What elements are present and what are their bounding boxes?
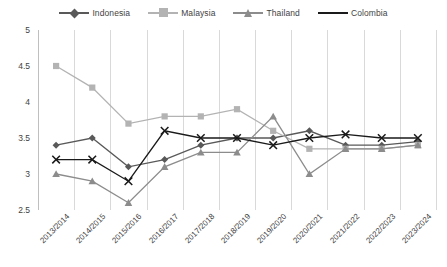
- triangle-marker-icon: [233, 8, 263, 18]
- series-line: [56, 116, 418, 202]
- legend-item-label: Thailand: [266, 8, 299, 18]
- cross-marker-icon: [318, 8, 348, 18]
- square-marker-icon: [148, 8, 178, 18]
- x-axis-tick-label: 2017/2018: [183, 212, 216, 245]
- y-axis-tick-label: 5: [25, 25, 30, 35]
- data-point-marker: [89, 85, 95, 91]
- legend-item-indonesia[interactable]: Indonesia: [59, 8, 130, 18]
- y-axis-tick-label: 2.5: [18, 205, 30, 215]
- y-axis-tick-label: 4: [25, 97, 30, 107]
- data-point-marker: [125, 121, 131, 127]
- data-point-marker: [306, 127, 313, 134]
- gridline: [436, 30, 437, 210]
- diamond-marker-icon: [59, 8, 89, 18]
- data-point-marker: [53, 142, 60, 149]
- plot-area: [38, 30, 436, 210]
- data-point-marker: [270, 135, 277, 142]
- data-point-marker: [197, 142, 204, 149]
- legend-item-colombia[interactable]: Colombia: [318, 8, 388, 18]
- data-point-marker: [269, 113, 277, 120]
- y-axis-tick-label: 3: [25, 169, 30, 179]
- x-axis-tick-label: 2014/2015: [75, 212, 108, 245]
- x-axis-tick-label: 2018/2019: [219, 212, 252, 245]
- data-point-marker: [162, 113, 168, 119]
- data-point-marker: [52, 170, 60, 177]
- data-point-marker: [234, 106, 240, 112]
- line-chart: IndonesiaMalaysiaThailandColombia 2.533.…: [0, 0, 447, 267]
- x-axis-tick-label: 2019/2020: [255, 212, 288, 245]
- legend-item-label: Colombia: [351, 8, 388, 18]
- y-axis-tick-label: 4.5: [18, 61, 30, 71]
- data-point-marker: [306, 146, 312, 152]
- legend-item-label: Indonesia: [92, 8, 130, 18]
- data-point-marker: [161, 163, 169, 170]
- data-point-marker: [53, 63, 59, 69]
- chart-legend: IndonesiaMalaysiaThailandColombia: [0, 4, 447, 22]
- x-axis-tick-label: 2016/2017: [147, 212, 180, 245]
- data-point-marker: [270, 128, 276, 134]
- y-axis-labels: 2.533.544.55: [0, 30, 34, 210]
- x-axis-tick-label: 2013/2014: [38, 212, 71, 245]
- x-axis-tick-label: 2021/2022: [328, 212, 361, 245]
- data-point-marker: [161, 156, 168, 163]
- data-point-marker: [198, 113, 204, 119]
- x-axis-tick-label: 2020/2021: [292, 212, 325, 245]
- series-lines-layer: [38, 30, 436, 210]
- x-axis-tick-label: 2015/2016: [111, 212, 144, 245]
- legend-item-malaysia[interactable]: Malaysia: [148, 8, 215, 18]
- x-axis-tick-label: 2023/2024: [400, 212, 433, 245]
- series-thailand: [52, 113, 421, 206]
- data-point-marker: [125, 177, 133, 185]
- data-point-marker: [306, 170, 314, 177]
- legend-item-label: Malaysia: [181, 8, 215, 18]
- x-axis-labels: 2013/20142014/20152015/20162016/20172017…: [38, 212, 436, 267]
- y-axis-tick-label: 3.5: [18, 133, 30, 143]
- legend-item-thailand[interactable]: Thailand: [233, 8, 299, 18]
- x-axis-tick-label: 2022/2023: [364, 212, 397, 245]
